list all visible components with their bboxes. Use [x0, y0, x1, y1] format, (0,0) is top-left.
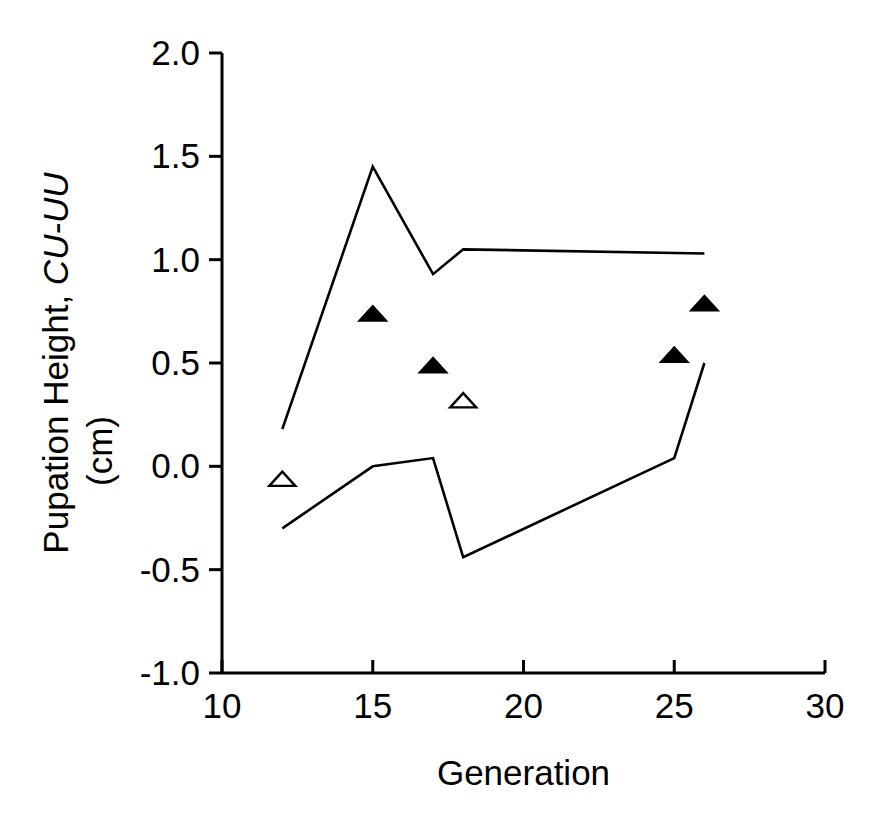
axes: [222, 53, 825, 673]
upper-confidence-line: [282, 167, 704, 429]
filled-triangle-points-marker: [420, 358, 446, 372]
lower-confidence-line: [282, 363, 704, 557]
y-tick-label: 1.0: [151, 240, 200, 279]
chart-figure: -1.0-0.50.00.51.01.52.01015202530 Genera…: [0, 0, 887, 820]
open-triangle-points-marker: [269, 472, 295, 486]
x-tick-label: 25: [655, 686, 694, 725]
y-axis-title-line1: Pupation Height, CU-UU: [36, 172, 75, 554]
x-tick-label: 30: [806, 686, 845, 725]
y-tick-label: 0.5: [151, 343, 200, 382]
y-tick-label: -1.0: [140, 653, 200, 692]
axis-ticks: [209, 53, 825, 673]
chart-plot-area: -1.0-0.50.00.51.01.52.01015202530 Genera…: [0, 0, 887, 820]
filled-triangle-points-marker: [360, 306, 386, 320]
x-tick-label: 20: [504, 686, 543, 725]
open-triangle-points-marker: [450, 393, 476, 407]
x-tick-label: 10: [203, 686, 242, 725]
y-tick-label: 1.5: [151, 136, 200, 175]
y-axis-title-italic: CU-UU: [36, 172, 75, 285]
y-tick-label: -0.5: [140, 550, 200, 589]
y-axis-title-line2: (cm): [80, 416, 119, 486]
axis-tick-labels: -1.0-0.50.00.51.01.52.01015202530: [140, 33, 845, 725]
x-tick-label: 15: [353, 686, 392, 725]
x-axis-title: Generation: [437, 753, 610, 792]
filled-triangle-points-marker: [661, 348, 687, 362]
y-tick-label: 0.0: [151, 446, 200, 485]
filled-triangle-points-marker: [691, 296, 717, 310]
data-series: [269, 167, 717, 558]
y-axis-title-plain: Pupation Height,: [36, 285, 75, 554]
y-tick-label: 2.0: [151, 33, 200, 72]
